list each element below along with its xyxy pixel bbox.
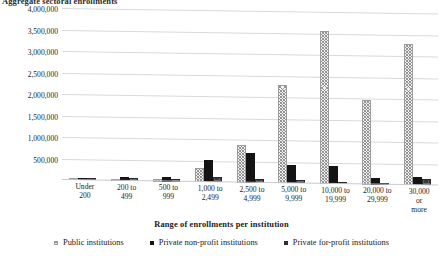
legend-swatch-icon (54, 241, 58, 245)
x-axis-tick-label: 500 to 999 (159, 183, 178, 201)
y-axis-tick-label: 2,000,000 (28, 91, 58, 100)
y-axis-tick-label: 1,000,000 (28, 134, 58, 143)
x-axis-tick-label: 10,000 to 19,999 (321, 186, 350, 204)
legend-item[interactable]: Public institutions (54, 238, 124, 247)
legend-label: Private for-profit institutions (293, 238, 389, 247)
bar (320, 31, 329, 185)
x-axis-tick-label: 1,000 to 2,499 (198, 184, 223, 202)
y-axis-tick-labels: 4,000,0003,500,0003,000,0002,500,0002,00… (0, 8, 62, 180)
page-title: Aggregate sectoral enrollments (2, 0, 118, 6)
y-axis-tick-label: 500,000 (33, 155, 58, 164)
bar (278, 85, 287, 183)
chart-legend: Public institutionsPrivate non-profit in… (0, 238, 443, 247)
x-axis-tick-label: 2,500 to 4,999 (240, 185, 265, 203)
x-axis-tick-label: 200 to 499 (117, 183, 136, 201)
y-axis-tick-label: 3,500,000 (28, 26, 58, 35)
y-axis-tick-label: 3,000,000 (28, 48, 58, 57)
x-axis-title: Range of enrollments per institution (0, 220, 443, 229)
bar (362, 100, 371, 184)
legend-label: Private non-profit institutions (159, 238, 258, 247)
bar (404, 44, 413, 185)
plot-area (62, 8, 438, 180)
legend-swatch-icon (150, 241, 154, 245)
bar-groups (62, 8, 438, 180)
x-axis-tick-label: Under 200 (75, 182, 94, 200)
legend-swatch-icon (284, 241, 288, 245)
x-axis-tick-label: 20,000 to 29,999 (363, 186, 392, 204)
legend-item[interactable]: Private for-profit institutions (284, 238, 389, 247)
x-axis-tick-labels: Under 200200 to 499500 to 9991,000 to 2,… (62, 178, 438, 220)
legend-label: Public institutions (63, 238, 124, 247)
y-axis-tick-label: 2,500,000 (28, 69, 58, 78)
y-axis-tick-label: 4,000,000 (28, 5, 58, 14)
legend-item[interactable]: Private non-profit institutions (150, 238, 258, 247)
x-axis-tick-label: 30,000 or more (409, 187, 430, 214)
y-axis-tick-label: 1,500,000 (28, 112, 58, 121)
x-axis-tick-label: 5,000 to 9,999 (281, 185, 306, 203)
